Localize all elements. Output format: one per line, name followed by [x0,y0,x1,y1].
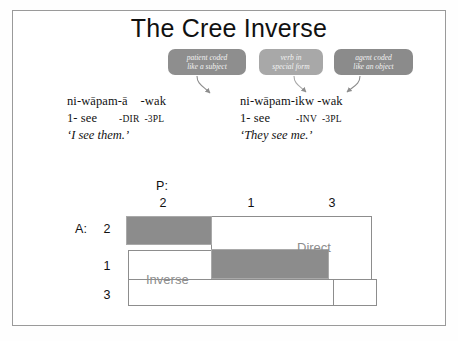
cell-2-2-highlight [126,216,212,245]
column-header-1: 1 [244,196,258,210]
direct-inverse-grid: P: A: 2 1 3 2 1 3 Direct Inverse [0,0,458,341]
agent-axis-label: A: [70,222,92,236]
column-header-2: 2 [156,196,170,210]
patient-axis-label: P: [152,179,172,193]
column-header-3: 3 [325,196,339,210]
region-inverse-label: Inverse [146,272,189,287]
region-direct-label: Direct [297,240,331,255]
region-direct-lower-box [329,279,377,306]
row-header-1: 1 [100,259,114,273]
slide-canvas: The Cree Inverse patient coded like a su… [0,0,458,341]
row-header-2: 2 [100,222,114,236]
row-header-3: 3 [100,288,114,302]
